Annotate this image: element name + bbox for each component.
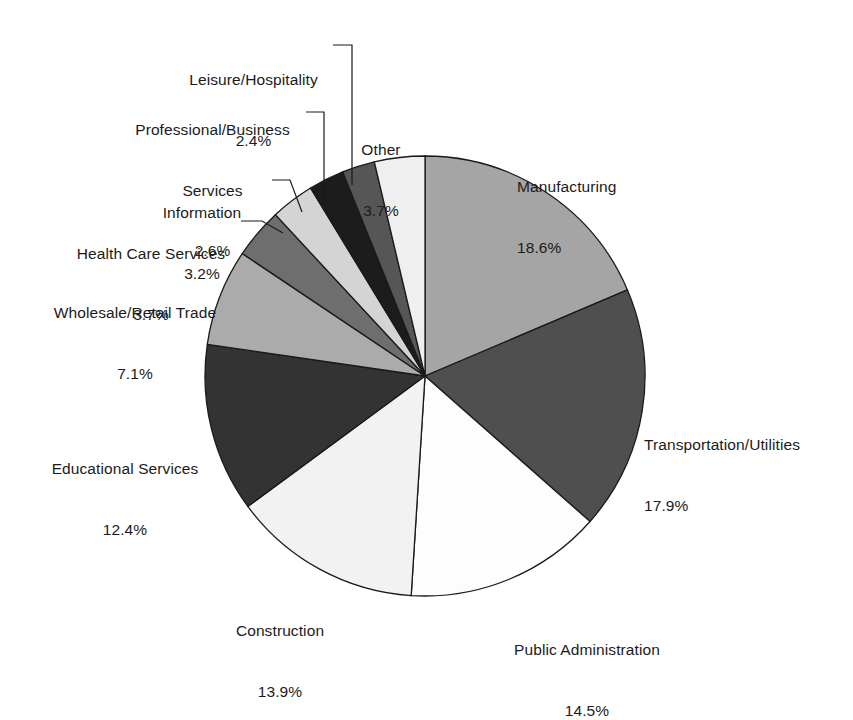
slice-label-public-administration: Public Administration 14.5% [472,600,702,720]
slice-label-construction: Construction 13.9% [200,581,360,720]
slice-label-leisure-hospitality-value: 2.4% [176,131,331,151]
slice-label-construction-name: Construction [200,621,360,641]
slice-label-educational-services: Educational Services 12.4% [30,419,220,580]
slice-label-public-administration-value: 14.5% [472,701,702,720]
slice-label-transportation-name: Transportation/Utilities [644,435,853,455]
slice-label-transportation: Transportation/Utilities 17.9% [644,395,853,556]
slice-label-other-name: Other [336,140,426,160]
slice-label-professional-business-services-value: 2.6% [120,241,305,261]
slice-label-wholesale-retail-trade-value: 7.1% [29,364,241,384]
slice-label-manufacturing-value: 18.6% [517,238,747,258]
slice-label-public-administration-name: Public Administration [472,640,702,660]
slice-label-leisure-hospitality: Leisure/Hospitality 2.4% [176,30,331,191]
slice-label-educational-services-name: Educational Services [30,459,220,479]
slice-label-construction-value: 13.9% [200,682,360,702]
slice-label-manufacturing: Manufacturing 18.6% [517,137,747,298]
slice-label-educational-services-value: 12.4% [30,520,220,540]
slice-label-leisure-hospitality-name: Leisure/Hospitality [176,70,331,90]
slice-label-other: Other 3.7% [336,100,426,261]
slice-label-transportation-value: 17.9% [644,496,853,516]
slice-label-other-value: 3.7% [336,201,426,221]
slice-label-manufacturing-name: Manufacturing [517,177,747,197]
